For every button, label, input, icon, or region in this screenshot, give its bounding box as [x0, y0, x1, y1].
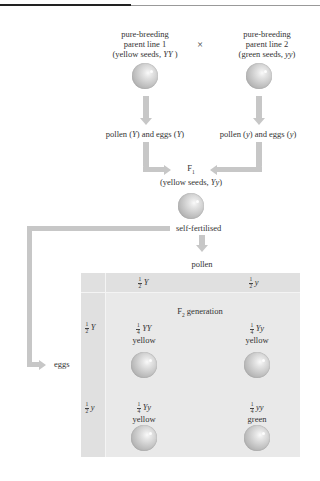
parent-line-2-label: pure-breeding parent line 2 (green seeds…	[217, 29, 317, 59]
arrow-shaft	[27, 226, 32, 367]
arrow-shaft	[256, 96, 262, 119]
pollen-label: pollen	[177, 259, 227, 269]
punnett-row-header-band	[81, 293, 106, 457]
arrow-down-icon	[140, 118, 152, 125]
gametes-right-label: pollen (y) and eggs (y)	[202, 129, 314, 139]
row-header-y: 12y	[85, 402, 95, 414]
arrow-shaft	[217, 167, 262, 172]
seed-yellow-icon	[132, 63, 158, 89]
seed-yellow-icon	[131, 425, 157, 451]
row-header-Y: 12Y	[85, 322, 95, 334]
seed-green-icon	[244, 425, 270, 451]
arrow-shaft	[27, 226, 170, 231]
arrow-right-icon	[164, 165, 171, 175]
punnett-cell-Yy: 14Yy yellow	[114, 402, 174, 424]
gametes-left-label: pollen (Y) and eggs (Y)	[90, 129, 200, 139]
arrow-shaft	[143, 167, 165, 172]
f1-description: (yellow seeds, Yy)	[141, 177, 241, 187]
seed-green-icon	[246, 63, 272, 89]
seed-yellow-icon	[131, 352, 157, 378]
arrow-down-icon	[253, 118, 265, 125]
cross-symbol: ×	[192, 40, 208, 50]
arrow-shaft	[143, 96, 149, 119]
f2-generation-title: F2 generation	[150, 306, 250, 320]
seed-yellow-icon	[244, 352, 270, 378]
punnett-cell-Yy: 14Yy yellow	[227, 323, 287, 345]
divider	[105, 273, 106, 457]
punnett-column-header-band	[81, 273, 300, 293]
divider	[81, 292, 300, 293]
self-fertilised-label: self-fertilised	[176, 223, 221, 233]
arrow-down-icon	[196, 245, 208, 252]
f1-label: F1	[176, 163, 206, 177]
column-header-Y: 12Y	[138, 277, 148, 289]
column-header-y: 12y	[249, 277, 259, 289]
header-rule-dark	[0, 4, 131, 6]
seed-f1-icon	[178, 193, 204, 219]
punnett-cell-yy: 14yy green	[227, 402, 287, 424]
punnett-cell-YY: 14YY yellow	[114, 323, 174, 345]
eggs-label: eggs	[54, 359, 70, 369]
parent-line-1-label: pure-breeding parent line 1 (yellow seed…	[95, 29, 195, 59]
arrow-left-icon	[210, 165, 217, 175]
arrow-right-icon	[39, 360, 46, 370]
header-rule-light	[131, 5, 320, 6]
